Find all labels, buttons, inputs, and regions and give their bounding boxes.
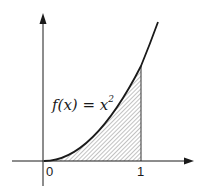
- x-tick-1: 1: [137, 164, 144, 179]
- x-tick-0: 0: [46, 164, 53, 179]
- y-axis-arrow-icon: [40, 13, 47, 24]
- x-axis-arrow-icon: [184, 158, 194, 165]
- function-label: f(x) = x2: [52, 96, 114, 114]
